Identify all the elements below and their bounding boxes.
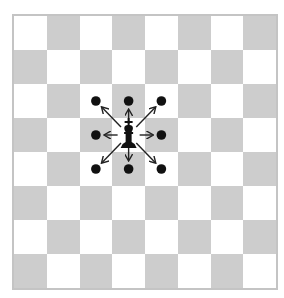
move-dot-down: [124, 164, 134, 174]
arrow-down-right: [136, 143, 155, 163]
move-dot-right: [157, 130, 167, 140]
move-overlay: [0, 0, 284, 298]
king-piece: [121, 118, 137, 148]
move-dot-up-right: [157, 96, 167, 106]
arrow-up-right: [136, 107, 155, 127]
arrow-up-left: [102, 107, 121, 127]
king-collar: [124, 132, 133, 134]
move-dot-up: [124, 96, 134, 106]
move-dot-down-right: [157, 164, 167, 174]
move-dot-up-left: [91, 96, 101, 106]
move-dot-left: [91, 130, 101, 140]
move-dot-down-left: [91, 164, 101, 174]
arrow-down-left: [102, 143, 121, 163]
